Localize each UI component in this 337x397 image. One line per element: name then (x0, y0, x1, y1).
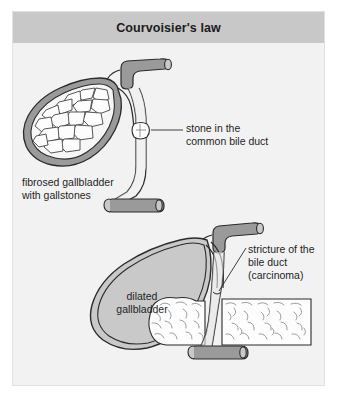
label-stone-in-common-bile-duct: stone in the common bile duct (186, 122, 268, 148)
duodenum-opening-lower (240, 347, 246, 358)
hepatic-duct-opening-lower (257, 223, 264, 233)
label-fibrosed-gallbladder: fibrosed gallbladder with gallstones (22, 176, 114, 202)
duodenum-left-cap-lower (188, 346, 194, 359)
duodenum-stub-lower (188, 346, 248, 359)
hepatic-duct-limb (121, 59, 170, 89)
label-stricture-carcinoma: stricture of the bile duct (carcinoma) (248, 243, 315, 282)
stone-body (132, 123, 150, 140)
duodenum-opening (156, 200, 162, 211)
hepatic-duct-opening (165, 59, 172, 69)
impacted-stone (132, 123, 150, 140)
label-dilated-gallbladder: dilated gallbladder (106, 290, 178, 316)
fibrosed-gallbladder (23, 78, 121, 166)
figure-root: Courvoisier's law (0, 0, 337, 397)
